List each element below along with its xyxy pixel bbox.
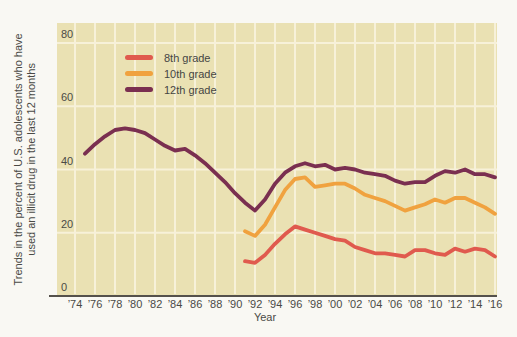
legend-item-12th-grade: 12th grade: [125, 83, 217, 96]
legend-label-8th-grade: 8th grade: [164, 52, 210, 64]
x-axis-title: Year: [240, 311, 290, 323]
legend-swatch-10th-grade: [125, 71, 153, 76]
x-tick-label: ’80: [128, 298, 143, 310]
line-chart: 020406080’74’76’78’80’82’84’86’88’90’92’…: [0, 0, 517, 337]
x-tick-label: ’88: [208, 298, 223, 310]
x-tick-label: ’00: [328, 298, 343, 310]
x-tick-label: ’78: [108, 298, 123, 310]
x-tick-label: ’96: [288, 298, 303, 310]
x-tick-label: ’12: [448, 298, 463, 310]
x-tick-label: ’08: [408, 298, 423, 310]
y-tick-label: 60: [61, 91, 73, 103]
x-tick-label: ’16: [488, 298, 503, 310]
plot-area: [57, 23, 497, 295]
legend-label-12th-grade: 12th grade: [164, 84, 217, 96]
y-axis-title: Trends in the percent of U.S. adolescent…: [12, 24, 39, 294]
x-tick-label: ’02: [348, 298, 363, 310]
x-tick-label: ’90: [228, 298, 243, 310]
legend-swatch-12th-grade: [125, 87, 153, 92]
legend-item-10th-grade: 10th grade: [125, 67, 217, 80]
x-tick-label: ’06: [388, 298, 403, 310]
legend-label-10th-grade: 10th grade: [164, 68, 217, 80]
legend: 8th grade 10th grade 12th grade: [125, 51, 217, 96]
x-tick-label: ’82: [148, 298, 163, 310]
x-tick-label: ’86: [188, 298, 203, 310]
x-tick-labels: ’74’76’78’80’82’84’86’88’90’92’94’96’98’…: [68, 298, 503, 310]
legend-item-8th-grade: 8th grade: [125, 51, 217, 64]
y-tick-label: 80: [61, 28, 73, 40]
x-tick-label: ’74: [68, 298, 83, 310]
x-tick-label: ’94: [268, 298, 283, 310]
y-tick-label: 20: [61, 218, 73, 230]
x-tick-label: ’92: [248, 298, 263, 310]
y-tick-label: 40: [61, 155, 73, 167]
chart-figure: 020406080’74’76’78’80’82’84’86’88’90’92’…: [0, 0, 517, 337]
x-tick-label: ’04: [368, 298, 383, 310]
y-tick-label: 0: [61, 281, 67, 293]
x-tick-label: ’10: [428, 298, 443, 310]
x-tick-label: ’76: [88, 298, 103, 310]
x-tick-label: ’98: [308, 298, 323, 310]
x-tick-label: ’14: [468, 298, 483, 310]
legend-swatch-8th-grade: [125, 55, 153, 60]
x-tick-label: ’84: [168, 298, 183, 310]
